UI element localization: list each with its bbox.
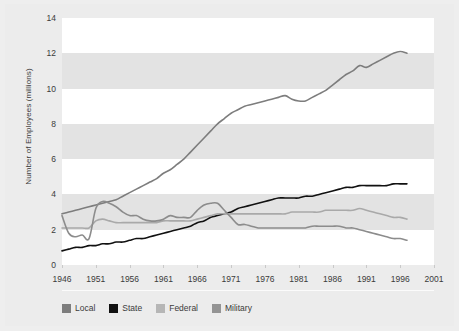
x-tick-label: 1981 [289,274,308,284]
legend-swatch-icon [212,304,221,313]
x-tick-mark [96,265,97,268]
x-tick-label: 1956 [120,274,139,284]
y-tick-label: 2 [51,225,56,235]
legend-label: Military [225,303,252,313]
y-tick-label: 12 [47,48,56,58]
series-lines [62,18,434,265]
chart-figure: Number of Employees (millions) 024681012… [0,0,459,331]
x-tick-mark [366,265,367,268]
x-tick-mark [333,265,334,268]
x-tick-label: 1966 [188,274,207,284]
x-tick-label: 1961 [154,274,173,284]
x-tick-label: 1976 [255,274,274,284]
legend-label: Federal [169,303,198,313]
x-tick-mark [299,265,300,268]
series-line-state [62,184,407,251]
chart-figure-inner: Number of Employees (millions) 024681012… [5,4,454,326]
x-tick-label: 1986 [323,274,342,284]
x-tick-mark [197,265,198,268]
x-tick-label: 1946 [53,274,72,284]
y-tick-label: 8 [51,119,56,129]
legend-item-federal[interactable]: Federal [156,303,198,313]
legend-swatch-icon [109,304,118,313]
y-tick-label: 0 [51,260,56,270]
x-tick-label: 1996 [391,274,410,284]
y-axis-title: Number of Employees (millions) [24,42,33,212]
legend-item-state[interactable]: State [109,303,142,313]
x-tick-mark [62,265,63,268]
series-line-federal [62,209,407,229]
series-line-military [62,201,407,240]
x-tick-label: 2001 [425,274,444,284]
plot-area: 02468101214 1946195119561961196619711976… [62,18,434,265]
legend-swatch-icon [62,304,71,313]
x-tick-mark [265,265,266,268]
legend-label: Local [75,303,95,313]
legend-divider [62,290,434,291]
legend-label: State [122,303,142,313]
series-line-local [62,52,407,214]
legend-item-military[interactable]: Military [212,303,252,313]
x-tick-mark [400,265,401,268]
x-tick-label: 1991 [357,274,376,284]
y-tick-label: 4 [51,189,56,199]
x-tick-mark [231,265,232,268]
x-tick-mark [163,265,164,268]
x-tick-mark [434,265,435,268]
chart-legend: LocalStateFederalMilitary [62,303,252,313]
x-tick-mark [130,265,131,268]
x-tick-label: 1951 [86,274,105,284]
y-tick-label: 14 [47,13,56,23]
legend-swatch-icon [156,304,165,313]
y-tick-label: 6 [51,154,56,164]
legend-item-local[interactable]: Local [62,303,95,313]
x-tick-label: 1971 [222,274,241,284]
y-tick-label: 10 [47,84,56,94]
